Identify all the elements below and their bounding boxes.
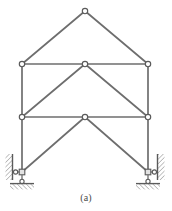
figure-background (0, 0, 172, 211)
truss-figure: ▁▁ ▁▁▁ ▁▁ ▁▁▁▁ ▁▁ (0, 0, 172, 211)
figure-caption: (a) (0, 192, 172, 204)
joint-upper-center-node (82, 61, 87, 66)
joint-middle-left-node (19, 114, 24, 119)
left-horizontal-roller-pin (14, 170, 18, 174)
joint-upper-right-node (145, 61, 150, 66)
joint-middle-center-node (82, 114, 87, 119)
joint-middle-right-node (145, 114, 150, 119)
truss-diagram (0, 0, 172, 211)
right-base-node-block (145, 169, 151, 175)
right-wall-hatching (158, 154, 165, 180)
left-wall-hatching (6, 154, 13, 180)
left-ground-roller-pin (20, 179, 24, 183)
left-ground-hatching (10, 184, 34, 190)
right-horizontal-roller-pin (152, 170, 156, 174)
right-ground-roller-pin (146, 179, 150, 183)
right-ground-hatching (136, 184, 160, 190)
joint-upper-left-node (19, 61, 24, 66)
left-base-node-block (19, 169, 25, 175)
joint-apex-node (82, 8, 87, 13)
